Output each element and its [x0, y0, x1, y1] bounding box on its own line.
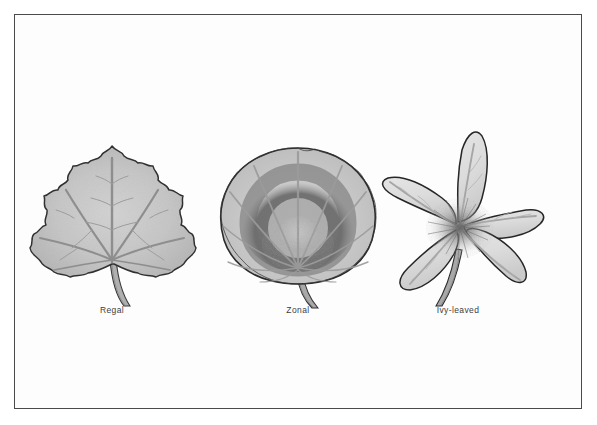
illustration-plate: Regal [0, 0, 597, 425]
zonal-centre-stipple [262, 216, 334, 272]
caption-regal: Regal [12, 305, 212, 315]
caption-ivy-leaved: Ivy-leaved [358, 305, 558, 315]
ivy-leaved-leaf-illustration [358, 110, 558, 310]
specimen-ivy-leaved: Ivy-leaved [358, 0, 558, 425]
regal-leaf-illustration [12, 110, 212, 310]
specimen-regal: Regal [12, 0, 212, 425]
